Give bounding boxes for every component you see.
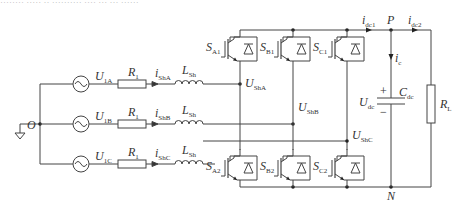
svg-text:U1A: U1A [95, 69, 112, 85]
switch-upper-c [328, 30, 364, 68]
phase-voltage-label-c: UShC [352, 128, 373, 144]
source-label-c: U1C [95, 149, 112, 165]
ac-source-icon [75, 162, 87, 167]
inductor-label-a: LSh [181, 63, 197, 79]
rl-label: RL [439, 97, 452, 113]
svg-text:SA2: SA2 [206, 159, 221, 175]
svg-text:UShA: UShA [245, 76, 266, 92]
switch-label-c2: SC2 [313, 159, 328, 175]
capacitor-plus-sign: + [380, 84, 387, 98]
resistor-icon [118, 120, 146, 128]
svg-text:R1: R1 [127, 145, 139, 161]
switch-upper-b [274, 30, 310, 68]
svg-text:LSh: LSh [181, 63, 197, 79]
svg-text:UShC: UShC [352, 128, 373, 144]
idc2-label: idc2 [408, 13, 422, 29]
switch-upper-a [221, 30, 257, 68]
ic-label: ic [395, 51, 401, 67]
udc-label: Udc [359, 95, 374, 111]
svg-text:ic: ic [395, 51, 401, 67]
switch-label-b1: SB1 [260, 40, 275, 56]
svg-text:SB2: SB2 [260, 159, 275, 175]
circuit-diagram: O [0, 0, 463, 212]
svg-text:U1C: U1C [95, 149, 112, 165]
resistor-label-c: R1 [127, 145, 139, 161]
source-label-b: U1B [95, 109, 112, 125]
inductor-label-b: LSh [181, 103, 197, 119]
switch-label-b2: SB2 [260, 159, 275, 175]
inductor-icon [175, 161, 203, 165]
current-label-a: iShA [155, 66, 171, 82]
svg-text:LSh: LSh [181, 103, 197, 119]
svg-text:UShB: UShB [298, 100, 319, 116]
svg-text:R1: R1 [127, 65, 139, 81]
resistor-icon [118, 80, 146, 88]
phase-voltage-label-b: UShB [298, 100, 319, 116]
capacitor-minus-sign: − [380, 105, 387, 119]
svg-text:SB1: SB1 [260, 40, 275, 56]
svg-text:idc2: idc2 [408, 13, 422, 29]
inductor-icon [175, 121, 203, 124]
resistor-icon [118, 160, 146, 168]
ac-source-icon [75, 122, 87, 127]
ac-source-icon [75, 82, 87, 87]
inductor-icon [175, 81, 203, 84]
current-label-b: iShB [155, 106, 171, 122]
switch-label-a1: SA1 [206, 40, 221, 56]
svg-text:R1: R1 [127, 105, 139, 121]
phase-voltage-label-a: UShA [245, 76, 266, 92]
svg-text:SA1: SA1 [206, 40, 221, 56]
switch-lower-b [274, 149, 310, 187]
cdc-label: Cdc [399, 85, 414, 101]
svg-text:iShC: iShC [155, 146, 171, 162]
svg-text:iShB: iShB [155, 106, 171, 122]
switch-label-c1: SC1 [313, 40, 328, 56]
svg-text:U1B: U1B [95, 109, 112, 125]
inductor-label-c: LSh [181, 143, 197, 159]
node-o-label: O [27, 118, 36, 132]
svg-text:RL: RL [439, 97, 452, 113]
current-label-c: iShC [155, 146, 171, 162]
arrow-icon [152, 162, 158, 167]
switch-label-a2: SA2 [206, 159, 221, 175]
resistor-label-a: R1 [127, 65, 139, 81]
resistor-label-b: R1 [127, 105, 139, 121]
svg-text:Cdc: Cdc [399, 85, 414, 101]
svg-text:Udc: Udc [359, 95, 374, 111]
load-resistor-icon [427, 85, 435, 123]
ic-arrow-icon [389, 54, 394, 60]
svg-text:SC2: SC2 [313, 159, 328, 175]
switch-lower-a [221, 149, 257, 187]
idc1-label: idc1 [362, 13, 376, 29]
arrow-icon [152, 122, 158, 127]
node-p-label: P [386, 13, 395, 27]
node-n-label: N [386, 189, 396, 203]
svg-text:iShA: iShA [155, 66, 171, 82]
svg-text:idc1: idc1 [362, 13, 376, 29]
source-label-a: U1A [95, 69, 112, 85]
svg-text:SC1: SC1 [313, 40, 328, 56]
phase-a-row [40, 76, 242, 92]
arrow-icon [152, 82, 158, 87]
svg-text:LSh: LSh [181, 143, 197, 159]
switch-lower-c [328, 149, 364, 187]
